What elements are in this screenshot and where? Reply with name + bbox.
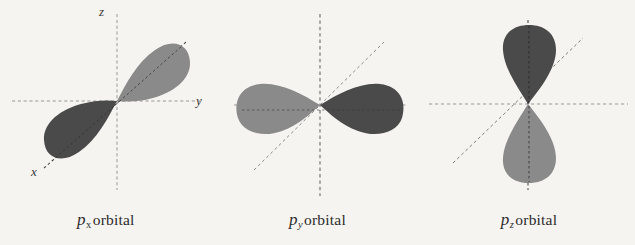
px-lobe-light: [117, 44, 190, 102]
px-caption-subscript: x: [86, 219, 93, 230]
py-caption: pyorbital: [212, 210, 424, 230]
py-caption-text: orbital: [304, 211, 346, 228]
orbital-panel-py: pyorbital: [212, 0, 424, 245]
px-axis-label-y: y: [196, 93, 202, 109]
pz-lobe-light: [503, 104, 556, 183]
p-orbital-figure: z y x pxorbital pyorbital: [0, 0, 635, 245]
px-caption-text: orbital: [93, 211, 135, 228]
pz-lobe-dark: [503, 25, 556, 104]
pz-caption-text: orbital: [515, 211, 557, 228]
pz-diagram: [423, 0, 635, 245]
py-diagram: [212, 0, 424, 245]
py-lobe-light: [236, 84, 320, 134]
px-caption-symbol: p: [77, 210, 86, 229]
orbital-panel-px: z y x pxorbital: [0, 0, 212, 245]
py-caption-symbol: p: [289, 210, 298, 229]
px-lobe-dark: [44, 100, 117, 158]
px-diagram: [0, 0, 212, 245]
pz-caption: pzorbital: [423, 210, 635, 230]
py-lobe-dark: [320, 84, 404, 134]
px-axis-label-x: x: [31, 164, 37, 180]
px-axis-label-z: z: [99, 4, 104, 20]
px-caption: pxorbital: [0, 210, 212, 230]
orbital-panel-pz: pzorbital: [423, 0, 635, 245]
